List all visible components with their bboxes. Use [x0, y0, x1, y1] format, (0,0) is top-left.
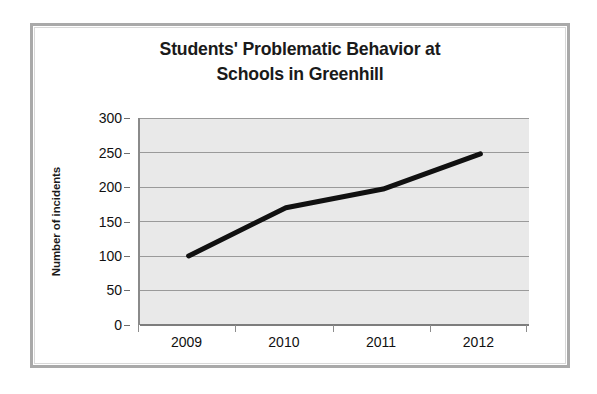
y-tick-100: 100: [99, 249, 122, 263]
y-axis-title: Number of incidents: [50, 118, 64, 325]
y-axis-tick-labels: 300 250 200 150 100 50 0: [78, 118, 130, 325]
x-axis-tick-labels: 2009 2010 2011 2012: [138, 334, 527, 354]
y-tick-250: 250: [99, 146, 122, 160]
chart-title-line-1: Students' Problematic Behavior at: [52, 36, 549, 61]
series-line-number-of-incidents: [189, 154, 481, 256]
y-tick-150: 150: [99, 215, 122, 229]
x-tickmark-4: [526, 325, 527, 332]
x-tickmark-2: [333, 325, 334, 332]
y-tick-0: 0: [114, 318, 122, 332]
x-label-2011: 2011: [366, 334, 396, 350]
x-axis-tickmarks: [138, 325, 527, 332]
chart-title-line-2: Schools in Greenhill: [52, 61, 549, 86]
chart-title: Students' Problematic Behavior at School…: [52, 36, 549, 86]
y-tick-200: 200: [99, 180, 122, 194]
x-tickmark-3: [430, 325, 431, 332]
x-label-2010: 2010: [268, 334, 299, 350]
y-tick-300: 300: [99, 111, 122, 125]
x-label-2009: 2009: [171, 334, 202, 350]
data-line-layer: [140, 118, 529, 325]
x-tickmark-1: [235, 325, 236, 332]
y-tick-50: 50: [106, 283, 122, 297]
x-tickmark-0: [138, 325, 139, 332]
x-label-2012: 2012: [463, 334, 494, 350]
plot-area: [138, 118, 529, 325]
